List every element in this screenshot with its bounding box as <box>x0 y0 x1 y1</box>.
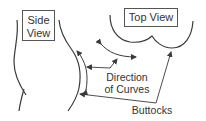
direction-of-curves-line1: Direction <box>101 71 153 83</box>
top-view-label-box: Top View <box>124 8 178 27</box>
buttocks-label: Buttocks <box>131 104 173 116</box>
direction-leader-to-top <box>110 59 117 68</box>
side-view-label-line2: View <box>23 27 54 40</box>
direction-of-curves-line2: of Curves <box>101 83 153 95</box>
buttocks-leader-to-top <box>156 52 171 103</box>
side-view-direction-arrow <box>77 51 87 90</box>
buttocks-leader-to-side <box>80 94 156 103</box>
direction-of-curves-label: Direction of Curves <box>101 71 153 95</box>
top-view-direction-arrow <box>101 44 136 57</box>
direction-leader-to-side <box>87 67 111 68</box>
side-view-label-line1: Side <box>23 14 54 27</box>
side-view-buttocks-contour <box>59 20 80 111</box>
side-view-left-branch <box>19 89 24 111</box>
side-view-label-box: Side View <box>22 10 55 41</box>
top-view-label: Top View <box>129 11 173 23</box>
